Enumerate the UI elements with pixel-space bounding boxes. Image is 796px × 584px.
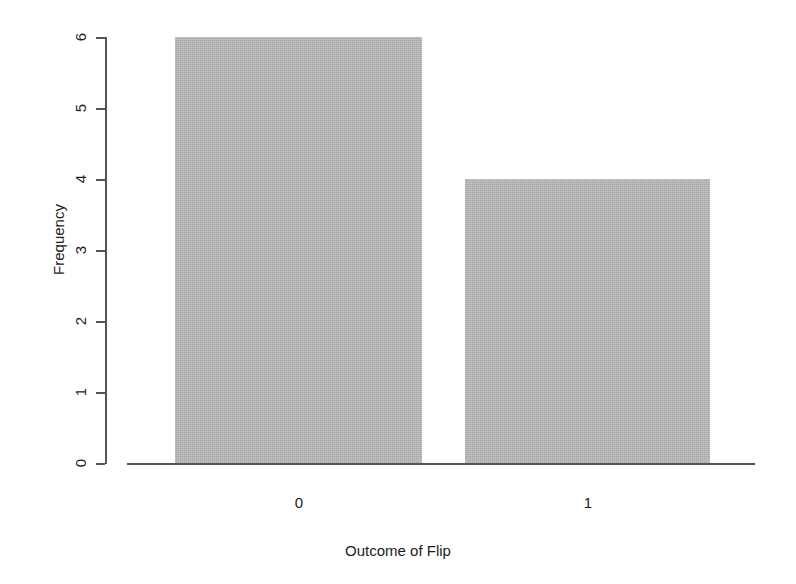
y-tick-3 (96, 250, 105, 252)
y-tick-5 (96, 108, 105, 110)
bar-category-0 (175, 37, 422, 464)
y-ticklabel-4: 4 (73, 170, 89, 188)
bar-chart-figure: 6 5 4 3 2 1 0 0 1 Frequency Outcome of F… (0, 0, 796, 584)
x-axis-line (127, 463, 755, 465)
y-tick-6 (96, 37, 105, 39)
y-ticklabel-2-wrap: 2 (0, 313, 92, 329)
y-tick-1 (96, 392, 105, 394)
y-ticklabel-3: 3 (73, 241, 89, 259)
y-ticklabel-1: 1 (73, 383, 89, 401)
y-ticklabel-6-wrap: 6 (0, 29, 92, 45)
y-ticklabel-5-wrap: 5 (0, 100, 92, 116)
bar-category-1 (465, 179, 710, 464)
y-tick-4 (96, 179, 105, 181)
y-axis-line (105, 37, 107, 464)
y-ticklabel-2: 2 (73, 312, 89, 330)
x-ticklabel-1: 1 (558, 494, 618, 512)
x-ticklabel-0: 0 (269, 494, 329, 512)
y-ticklabel-3-wrap: 3 (0, 242, 92, 258)
y-tick-2 (96, 321, 105, 323)
y-tick-0 (96, 463, 105, 465)
x-axis-title: Outcome of Flip (0, 542, 796, 559)
plot-area: 6 5 4 3 2 1 0 0 1 Frequency Outcome of F… (0, 0, 796, 584)
y-ticklabel-0: 0 (73, 454, 89, 472)
y-ticklabel-5: 5 (73, 99, 89, 117)
y-ticklabel-4-wrap: 4 (0, 171, 92, 187)
y-ticklabel-1-wrap: 1 (0, 384, 92, 400)
y-ticklabel-0-wrap: 0 (0, 455, 92, 471)
y-ticklabel-6: 6 (73, 28, 89, 46)
y-axis-title: Frequency (50, 160, 67, 320)
